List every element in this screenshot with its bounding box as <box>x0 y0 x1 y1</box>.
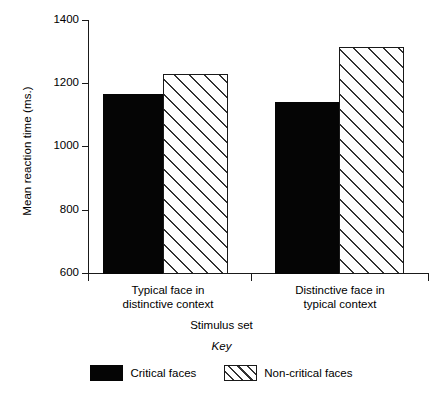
x-category-label-2: Distinctive face in typical context <box>270 283 410 311</box>
x-tick-group-separator <box>251 274 252 281</box>
y-tick-1200 <box>82 83 89 84</box>
x-category-label-1-line-1: Typical face in <box>98 283 238 297</box>
bar-non-critical-faces-typical-face-distinctive-context <box>163 74 228 274</box>
legend: Critical faces Non-critical faces <box>0 365 443 381</box>
legend-item-non-critical-faces: Non-critical faces <box>224 365 352 381</box>
y-tick-label-600: 600 <box>19 267 79 279</box>
hatched-swatch-icon <box>224 365 257 381</box>
y-axis-line <box>88 20 89 274</box>
x-category-label-2-line-1: Distinctive face in <box>270 283 410 297</box>
y-tick-800 <box>82 210 89 211</box>
x-tick-right-end <box>428 274 429 281</box>
bar-chart-figure: Mean reaction time (ms.) 1400 1200 1000 … <box>0 0 443 398</box>
y-tick-label-800: 800 <box>19 204 79 216</box>
y-tick-1400 <box>82 20 89 21</box>
bar-non-critical-faces-distinctive-face-typical-context <box>339 47 404 274</box>
bar-critical-faces-typical-face-distinctive-context <box>103 94 163 274</box>
y-tick-1000 <box>82 146 89 147</box>
x-category-label-1: Typical face in distinctive context <box>98 283 238 311</box>
x-axis-title: Stimulus set <box>0 319 443 331</box>
x-category-label-2-line-2: typical context <box>270 297 410 311</box>
legend-label-critical-faces: Critical faces <box>130 367 196 379</box>
legend-label-non-critical-faces: Non-critical faces <box>264 367 352 379</box>
y-tick-label-1200: 1200 <box>19 77 79 89</box>
legend-title: Key <box>0 340 443 352</box>
legend-item-critical-faces: Critical faces <box>90 365 196 381</box>
y-tick-label-1000: 1000 <box>19 140 79 152</box>
x-tick-left-end <box>88 274 89 281</box>
solid-black-swatch-icon <box>90 365 123 381</box>
x-category-label-1-line-2: distinctive context <box>98 297 238 311</box>
bar-critical-faces-distinctive-face-typical-context <box>275 102 339 274</box>
y-tick-label-1400: 1400 <box>19 14 79 26</box>
